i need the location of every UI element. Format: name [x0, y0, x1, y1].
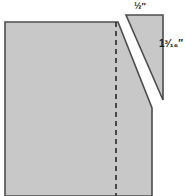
diagram-container: ½″ 1³⁄₁₆″ — [0, 0, 185, 196]
measurement-top-value: ½″ — [134, 1, 146, 11]
measurement-right-value: 1³⁄₁₆″ — [159, 38, 183, 49]
measurement-label-half-inch: ½″ — [134, 2, 146, 11]
main-fabric-panel — [5, 22, 152, 196]
diagram-canvas — [0, 0, 185, 196]
measurement-label-one-three-sixteenths-inch: 1³⁄₁₆″ — [159, 39, 183, 49]
